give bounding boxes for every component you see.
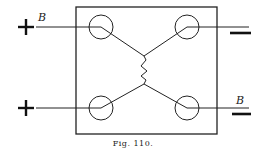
diag-bottom-right [144, 84, 187, 108]
label-b-bottom-right: B [235, 94, 244, 107]
plus-terminal-top [18, 19, 34, 35]
diag-top-left [101, 27, 144, 56]
zigzag-resistor [141, 56, 147, 84]
diag-top-right [144, 27, 187, 56]
diag-bottom-left [101, 84, 144, 108]
plus-terminal-bottom [18, 100, 34, 116]
label-b-top-left: B [37, 11, 46, 24]
figure-caption: Fig. 110. [113, 139, 154, 148]
diagram-figure: B B Fig. 110. [0, 0, 266, 152]
